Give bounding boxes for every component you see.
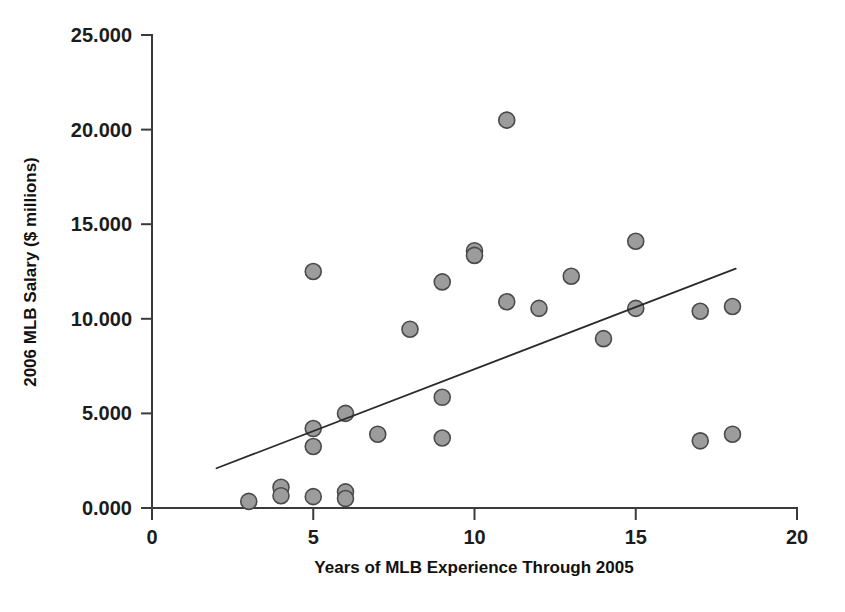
- data-point: [370, 426, 386, 442]
- data-point: [305, 264, 321, 280]
- data-point: [725, 299, 741, 315]
- y-tick-label: 25.000: [71, 24, 132, 46]
- y-tick-label: 5.000: [82, 402, 132, 424]
- data-point: [434, 430, 450, 446]
- data-point: [692, 433, 708, 449]
- scatter-plot: 0.0005.00010.00015.00020.00025.000 05101…: [0, 0, 845, 612]
- data-point: [531, 300, 547, 316]
- x-axis-tick-labels: 05101520: [146, 526, 808, 548]
- y-tick-label: 10.000: [71, 308, 132, 330]
- y-tick-label: 20.000: [71, 119, 132, 141]
- x-tick-label: 20: [786, 526, 808, 548]
- data-point: [692, 303, 708, 319]
- data-point: [305, 489, 321, 505]
- y-tick-label: 15.000: [71, 213, 132, 235]
- data-point: [434, 389, 450, 405]
- data-point: [402, 321, 418, 337]
- data-point: [338, 491, 354, 507]
- data-point: [273, 488, 289, 504]
- y-axis-title: 2006 MLB Salary ($ millions): [21, 157, 40, 387]
- x-tick-label: 5: [308, 526, 319, 548]
- y-axis-tick-marks: [141, 35, 152, 508]
- x-axis-title: Years of MLB Experience Through 2005: [314, 558, 633, 577]
- data-point: [563, 268, 579, 284]
- data-point: [725, 426, 741, 442]
- trend-line: [217, 269, 736, 469]
- data-point: [596, 331, 612, 347]
- x-tick-label: 0: [146, 526, 157, 548]
- data-point: [241, 493, 257, 509]
- data-point: [305, 439, 321, 455]
- data-points-group: [241, 112, 741, 509]
- chart-page: 0.0005.00010.00015.00020.00025.000 05101…: [0, 0, 845, 612]
- x-tick-label: 10: [463, 526, 485, 548]
- data-point: [499, 112, 515, 128]
- y-tick-label: 0.000: [82, 497, 132, 519]
- data-point: [499, 294, 515, 310]
- y-axis-tick-labels: 0.0005.00010.00015.00020.00025.000: [71, 24, 132, 519]
- data-point: [467, 247, 483, 263]
- data-point: [434, 274, 450, 290]
- x-tick-label: 15: [625, 526, 647, 548]
- data-point: [628, 233, 644, 249]
